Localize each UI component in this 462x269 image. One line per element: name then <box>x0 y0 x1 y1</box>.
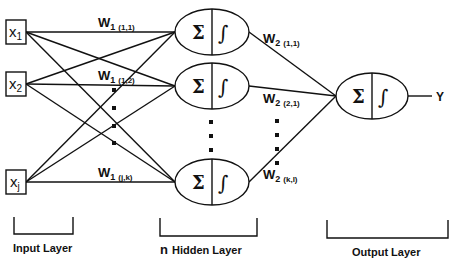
weight-label-w1-12: W1(1,2) <box>98 68 135 85</box>
output-layer-label: Output Layer <box>352 246 421 258</box>
hidden-node-k: Σ ∫ <box>175 159 249 205</box>
activation-icon: ∫ <box>218 21 228 45</box>
hidden-node-1: Σ ∫ <box>175 9 249 55</box>
weight-label-w2-21: W2(2,1) <box>263 91 300 108</box>
weight-label-w1-jk: W1(j,k) <box>98 165 133 182</box>
output-layer-bracket <box>327 220 448 238</box>
weight-label-w1-11: W1(1,1) <box>98 15 135 32</box>
input-layer: x1 x2 xj <box>6 20 26 194</box>
layer-brackets <box>14 217 448 238</box>
edge-x2-h2 <box>26 84 175 86</box>
sum-icon: Σ <box>192 172 205 193</box>
weight-label-w2-11: W2(1,1) <box>263 31 300 48</box>
hidden-layer-label: Hidden Layer <box>172 244 242 256</box>
output-y-label: Y <box>436 90 444 104</box>
hidden-layer-count: n <box>160 242 168 257</box>
sum-icon: Σ <box>352 86 365 107</box>
hidden-node-2: Σ ∫ <box>175 63 249 109</box>
activation-icon: ∫ <box>218 75 228 99</box>
sum-icon: Σ <box>192 22 205 43</box>
hidden-layer-bracket <box>160 218 257 236</box>
activation-icon: ∫ <box>378 85 388 109</box>
weight-label-w2-kl: W2(k,l) <box>263 167 298 184</box>
activation-icon: ∫ <box>218 171 228 195</box>
input-layer-label: Input Layer <box>13 242 73 254</box>
input-layer-bracket <box>14 217 73 234</box>
neural-network-diagram: x1 x2 xj Σ ∫ Σ ∫ Σ ∫ Σ ∫ Y <box>0 0 462 269</box>
hidden-layer: Σ ∫ Σ ∫ Σ ∫ <box>175 9 249 205</box>
sum-icon: Σ <box>192 76 205 97</box>
output-node: Σ ∫ <box>336 73 408 119</box>
